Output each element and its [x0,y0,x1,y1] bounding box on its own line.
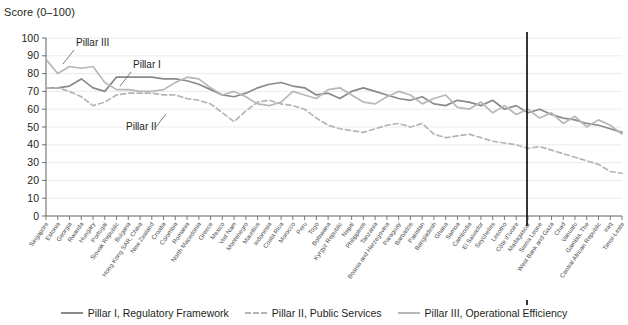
legend-item[interactable]: Pillar II, Public Services [245,307,382,319]
annotation-leader-line [156,114,166,127]
y-axis-tick-label: 0 [33,210,39,222]
y-axis-tick-label: 10 [27,192,39,204]
y-axis-tick-label: 40 [27,138,39,150]
x-axis-tick-label: Peru [295,220,309,235]
y-axis-tick-label: 30 [27,156,39,168]
legend-item[interactable]: Pillar I, Regulatory Framework [61,307,229,319]
y-axis-tick-label: 90 [27,49,39,61]
line-chart-plot: 0102030405060708090100SingaporeEstoniaGe… [0,0,628,305]
y-axis-tick-label: 50 [27,121,39,133]
y-axis-tick-label: 60 [27,103,39,115]
series-annotation-label: Pillar III [76,37,109,48]
legend-swatch [245,312,267,314]
y-axis-tick-label: 100 [21,32,39,44]
legend-label: Pillar II, Public Services [272,307,382,319]
legend-item[interactable]: Pillar III, Operational Efficiency [398,307,568,319]
annotation-leader-line [120,72,131,86]
series-annotation-label: Pillar I [133,59,161,70]
legend-swatch [61,312,83,314]
y-axis-tick-label: 70 [27,85,39,97]
chart-legend: Pillar I, Regulatory FrameworkPillar II,… [0,307,628,319]
series-annotation-label: Pillar II [126,121,157,132]
y-axis-tick-label: 80 [27,67,39,79]
chart-container: Score (0–100) 0102030405060708090100Sing… [0,0,628,325]
y-axis-tick-label: 20 [27,174,39,186]
legend-label: Pillar III, Operational Efficiency [425,307,568,319]
legend-label: Pillar I, Regulatory Framework [88,307,229,319]
annotation-leader-line [63,50,74,64]
legend-swatch [398,312,420,314]
